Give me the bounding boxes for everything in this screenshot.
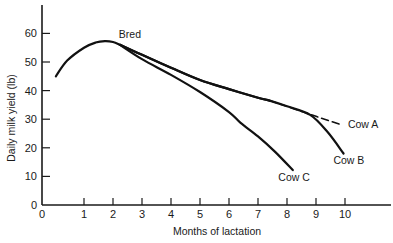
annotation-bred: Bred <box>119 28 141 40</box>
y-ticks: 0102030405060 <box>25 27 50 211</box>
series-cow-a-solid <box>120 45 270 101</box>
series-cow-c <box>120 45 293 170</box>
y-tick-label: 60 <box>25 27 37 39</box>
x-tick-label: 10 <box>339 208 351 220</box>
y-tick-label: 30 <box>25 113 37 125</box>
x-tick-label: 2 <box>110 208 116 220</box>
x-ticks: 012345678910 <box>39 198 351 220</box>
y-tick-label: 20 <box>25 142 37 154</box>
y-axis-title: Daily milk yield (lb) <box>5 74 17 162</box>
annotation-cow-a: Cow A <box>348 118 378 130</box>
x-axis-title: Months of lactation <box>173 225 261 237</box>
x-tick-label: 1 <box>81 208 87 220</box>
x-tick-label: 8 <box>284 208 290 220</box>
y-tick-label: 0 <box>31 199 37 211</box>
y-tick-label: 50 <box>25 56 37 68</box>
x-tick-label: 0 <box>39 208 45 220</box>
x-tick-label: 9 <box>313 208 319 220</box>
x-tick-label: 6 <box>226 208 232 220</box>
x-tick-label: 4 <box>168 208 174 220</box>
annotation-cow-c: Cow C <box>278 171 310 183</box>
x-tick-label: 3 <box>139 208 145 220</box>
x-tick-label: 5 <box>197 208 203 220</box>
y-tick-label: 40 <box>25 85 37 97</box>
curves <box>56 41 344 170</box>
y-tick-label: 10 <box>25 170 37 182</box>
x-tick-label: 7 <box>255 208 261 220</box>
chart-svg: 012345678910 0102030405060 BredCow ACow … <box>0 0 393 243</box>
shared-curve <box>56 41 120 76</box>
lactation-chart: 012345678910 0102030405060 BredCow ACow … <box>0 0 393 243</box>
axes <box>42 5 391 205</box>
series-cow-b <box>120 45 344 154</box>
annotations: BredCow ACow BCow C <box>119 28 378 183</box>
annotation-cow-b: Cow B <box>333 154 364 166</box>
